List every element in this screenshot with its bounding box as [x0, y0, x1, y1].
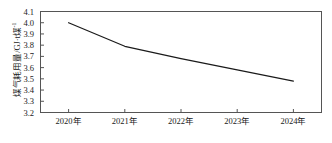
plot-area [0, 0, 332, 143]
x-axis-ticks [69, 109, 294, 113]
chart-figure: 煤气耗用量/GJ·t煤-1 3.23.33.43.53.63.73.83.94.… [0, 0, 332, 143]
y-axis-ticks [41, 12, 45, 113]
data-series-line [69, 23, 294, 81]
plot-frame [41, 12, 322, 113]
